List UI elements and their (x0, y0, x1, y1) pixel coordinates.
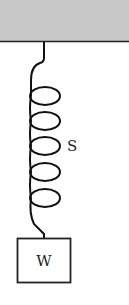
spring-coil (30, 189, 60, 207)
spring-weight-diagram: S W (0, 0, 129, 305)
weight-label: W (36, 252, 52, 270)
spring-coil (30, 163, 60, 181)
spring-label: S (67, 137, 77, 155)
spring-coil (30, 87, 60, 105)
spring-coil (30, 137, 60, 155)
spring (30, 42, 60, 239)
spring-coil (30, 112, 60, 130)
spring-spine (30, 96, 31, 198)
ceiling (0, 0, 129, 41)
